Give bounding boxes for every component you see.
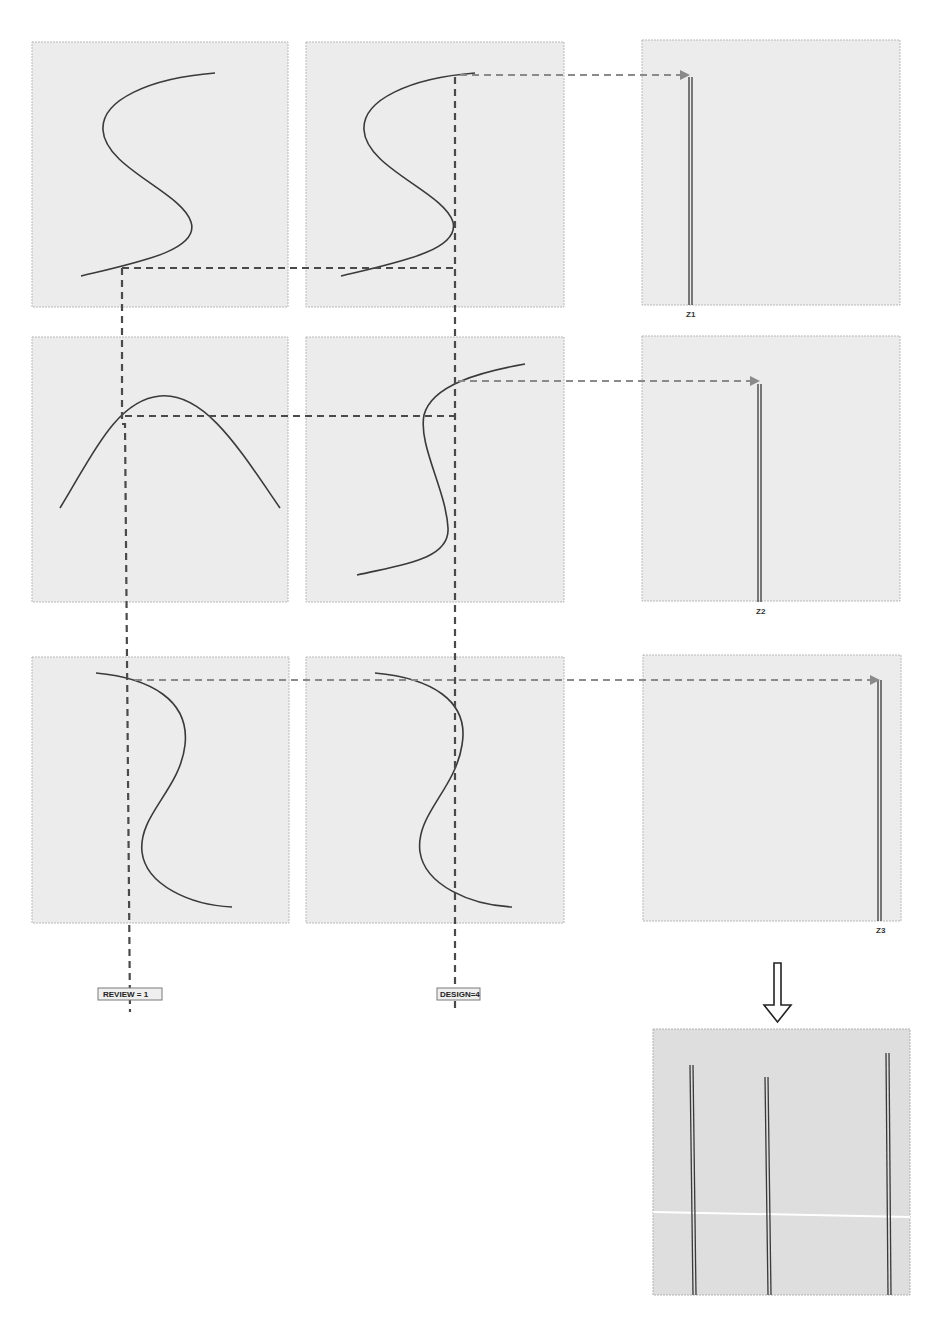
- down-arrow-icon: [764, 963, 791, 1022]
- review-tag: REVIEW = 1: [98, 988, 162, 1000]
- row-1-z-panel: [642, 40, 900, 305]
- result-panel: [653, 1029, 910, 1295]
- diagram-canvas: Z1 Z2 Z3 REVI: [0, 0, 945, 1330]
- row-3-z-panel: [643, 655, 901, 921]
- design-tag: DESIGN=4: [437, 988, 480, 1000]
- row-2-z-panel: [642, 336, 900, 601]
- review-tag-label: REVIEW = 1: [103, 990, 149, 999]
- row-2-middle-panel: [306, 337, 564, 602]
- row-2: Z2: [32, 336, 900, 616]
- row-2-left-panel: [32, 337, 288, 602]
- design-tag-label: DESIGN=4: [440, 990, 480, 999]
- row-3: Z3: [32, 655, 901, 935]
- z3-label: Z3: [876, 926, 886, 935]
- z1-label: Z1: [686, 310, 696, 319]
- z2-label: Z2: [756, 607, 766, 616]
- row-3-middle-panel: [306, 657, 564, 923]
- row-1: Z1: [32, 40, 900, 319]
